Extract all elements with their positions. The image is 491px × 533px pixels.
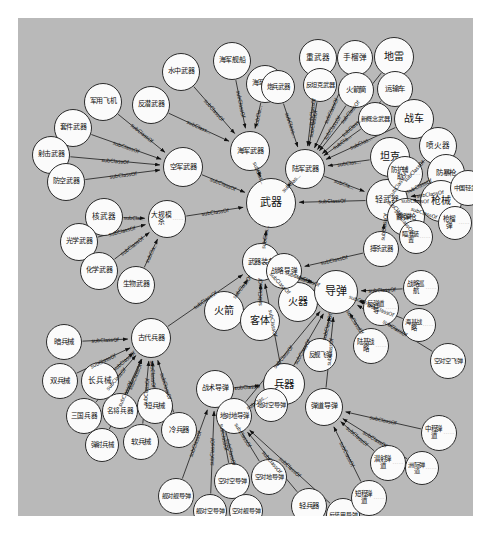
graph-node[interactable]: 双兵械 bbox=[42, 363, 78, 399]
graph-node-label: 火箭 bbox=[214, 306, 233, 316]
graph-node-label: 地雷 bbox=[384, 52, 403, 62]
graph-node[interactable]: 战略巡航...... bbox=[403, 270, 439, 306]
graph-node-label: 火箭筒 bbox=[346, 86, 366, 94]
graph-edge bbox=[169, 113, 229, 141]
graph-node[interactable]: 名将兵器 bbox=[102, 393, 138, 429]
graph-node-label: 兵器 bbox=[274, 379, 293, 390]
graph-node[interactable]: 海军舰船 bbox=[213, 42, 251, 80]
graph-node[interactable]: 空对地导弹 bbox=[251, 459, 287, 495]
graph-node-label: 短兵械 bbox=[145, 402, 165, 410]
graph-node-ellipsis: ...... bbox=[374, 496, 385, 500]
graph-node[interactable]: 地对空导弹 bbox=[254, 388, 288, 422]
graph-node[interactable]: 暗兵械 bbox=[46, 324, 82, 360]
graph-node[interactable]: 反舰飞弹 bbox=[303, 338, 337, 372]
graph-node-ellipsis: ...... bbox=[386, 306, 397, 310]
graph-node-label: 轻兵器 bbox=[299, 502, 319, 510]
graph-edge bbox=[114, 232, 149, 259]
graph-node-label: 战车 bbox=[404, 114, 423, 124]
graph-node-label: 枪械 bbox=[431, 196, 450, 206]
graph-node-label: 新概念武器 bbox=[361, 116, 390, 122]
graph-node[interactable]: 海基战略...... bbox=[402, 308, 436, 342]
graph-node-ellipsis: ...... bbox=[423, 323, 434, 327]
graph-node-label: 弹道导弹 bbox=[311, 403, 338, 410]
graph-node[interactable]: 短程弹道...... bbox=[351, 480, 387, 516]
graph-edge bbox=[152, 361, 154, 387]
graph-node[interactable]: 陆军武器 bbox=[285, 149, 325, 189]
graph-node[interactable]: 舰对舰导弹 bbox=[158, 478, 194, 514]
graph-node-label: 防空武器 bbox=[53, 178, 80, 185]
graph-node-label: 重武器 bbox=[306, 54, 329, 62]
graph-edge bbox=[283, 104, 297, 147]
graph-node-label: 地对空导弹 bbox=[257, 402, 286, 408]
graph-node-label: 古代兵器 bbox=[138, 334, 165, 341]
graph-node-label: 核武器 bbox=[92, 213, 115, 221]
graph-node[interactable]: 古代兵器 bbox=[131, 318, 171, 358]
graph-node-ellipsis: ...... bbox=[376, 344, 387, 348]
graph-node[interactable]: 战略导弹 bbox=[266, 253, 302, 289]
graph-edge bbox=[328, 160, 370, 166]
graph-node[interactable]: 生物武器 bbox=[117, 266, 155, 304]
graph-node-label: 武器 bbox=[260, 197, 281, 208]
graph-node-label: 舰对空导弹 bbox=[196, 508, 225, 514]
graph-node-label: 暗兵械 bbox=[54, 338, 74, 346]
graph-node-label: 陆军武器 bbox=[292, 165, 319, 172]
graph-node[interactable]: 反潜武器 bbox=[132, 86, 170, 124]
graph-node[interactable]: 手榴弹 bbox=[337, 40, 373, 76]
graph-node-label: 短程弹道 bbox=[353, 491, 374, 504]
graph-node-label: 反坦克武器 bbox=[306, 82, 335, 88]
graph-node[interactable]: 潜射弹道...... bbox=[370, 445, 406, 481]
graph-node[interactable]: 陆基战略...... bbox=[353, 328, 389, 364]
graph-edge bbox=[299, 201, 365, 203]
graph-node-label: 防暴枪 bbox=[436, 169, 456, 177]
graph-node[interactable]: 中程弹道...... bbox=[421, 415, 457, 451]
graph-node[interactable]: 枪榴弹...... bbox=[438, 206, 472, 240]
graph-node-label: 三国兵器 bbox=[71, 413, 98, 420]
graph-edge bbox=[324, 316, 329, 338]
graph-node-label: 反弹道导 bbox=[365, 301, 386, 314]
graph-node[interactable]: 大规模杀...... bbox=[148, 200, 186, 238]
graph-node-label: 海军舰船 bbox=[219, 57, 246, 64]
graph-node[interactable]: 轻兵器 bbox=[291, 488, 327, 516]
graph-edge bbox=[236, 280, 247, 295]
graph-node[interactable]: 导弹 bbox=[314, 270, 358, 314]
graph-node[interactable]: 炮兵武器 bbox=[261, 70, 295, 104]
graph-edge bbox=[202, 175, 245, 193]
graph-node-label: 双兵械 bbox=[50, 377, 70, 385]
graph-node-label: 空对地导弹 bbox=[255, 474, 284, 480]
graph-node[interactable]: 冷兵器 bbox=[161, 412, 197, 448]
graph-node[interactable]: 水中武器 bbox=[162, 53, 200, 91]
graph-node[interactable]: 空军武器 bbox=[163, 147, 203, 187]
graph-node-label: 军用飞机 bbox=[90, 98, 117, 105]
graph-node[interactable]: 洲际弹道...... bbox=[405, 451, 439, 485]
graph-node[interactable]: 弹道导弹 bbox=[305, 388, 343, 426]
graph-edge bbox=[334, 427, 361, 482]
graph-node[interactable]: 搏杀武器 bbox=[363, 231, 399, 267]
graph-node[interactable]: 化学武器 bbox=[80, 252, 118, 290]
graph-node[interactable]: 软兵械 bbox=[123, 424, 159, 460]
graph-node[interactable]: 空对空飞弹 bbox=[430, 343, 466, 379]
graph-node[interactable]: 海军武器 bbox=[230, 131, 270, 171]
graph-node[interactable]: 瞄准装置...... bbox=[399, 220, 433, 254]
ontology-graph-canvas[interactable]: 武器空军武器海军武器陆军武器轻武器军用飞机套件武器射击武器防空武器反潜武器水中武… bbox=[18, 18, 473, 516]
graph-node-label: 运输车 bbox=[385, 85, 405, 93]
graph-node[interactable]: 武器 bbox=[246, 178, 296, 228]
graph-edge bbox=[324, 176, 364, 191]
graph-edge bbox=[123, 218, 144, 219]
graph-node-label: 导弹 bbox=[325, 286, 346, 297]
graph-node-label: 火器 bbox=[288, 297, 307, 307]
graph-node-label: 陆基战略 bbox=[355, 339, 376, 352]
graph-node-label: 射击武器 bbox=[38, 151, 65, 158]
graph-node[interactable]: 客体 bbox=[240, 301, 280, 341]
graph-node[interactable]: 军用飞机 bbox=[84, 83, 122, 121]
graph-node[interactable]: 地对地导弹 bbox=[216, 398, 252, 434]
graph-edge bbox=[350, 313, 361, 330]
graph-node[interactable]: 弹射兵械 bbox=[85, 428, 119, 462]
graph-node-label: 舰对舰导弹 bbox=[162, 493, 191, 499]
graph-node[interactable]: 反坦克武器 bbox=[303, 68, 337, 102]
graph-node[interactable]: 防空武器 bbox=[47, 163, 85, 201]
graph-node[interactable]: 防护辅助...... bbox=[387, 156, 423, 192]
graph-node[interactable]: 新概念武器 bbox=[358, 102, 392, 136]
graph-node[interactable]: 反弹道导...... bbox=[363, 290, 399, 326]
graph-node[interactable]: 火箭 bbox=[204, 291, 244, 331]
graph-node-label: 大规模杀 bbox=[150, 212, 173, 226]
